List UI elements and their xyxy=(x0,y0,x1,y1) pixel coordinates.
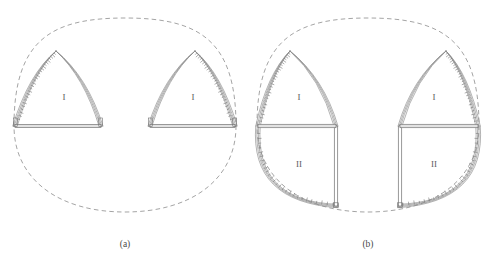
panel-a-left-anchor-hatch xyxy=(17,53,56,120)
panel-a-right-anchor-hatch-tick xyxy=(195,53,197,55)
panel-b-excavation-profile xyxy=(257,18,479,212)
panel-a-left-anchor-hatch-tick xyxy=(52,55,55,58)
panel-a-left-arch-inner-stroke xyxy=(56,51,99,126)
panel-b-right-lower-arch-outer-stroke xyxy=(398,126,481,208)
panel-a-left-anchor-hatch-tick xyxy=(47,60,50,63)
panel-a-right-anchor-hatch xyxy=(195,53,233,120)
panel-b-right-upper-arch-inner-stroke xyxy=(402,51,446,126)
panel-a-right-arch-inner-stroke xyxy=(148,51,195,126)
panel-a-right-anchor-hatch-tick xyxy=(202,62,205,64)
panel-b-right-lower-arch-outer-stroke xyxy=(398,126,478,205)
panel-a-left-anchor-hatch-tick xyxy=(43,66,46,69)
panel-b-right-upper-anchor-hatch-tick xyxy=(448,56,451,58)
panel-b-right-zone-label-II: II xyxy=(431,159,437,169)
panel-b-right-lower-arch-outer-stroke xyxy=(398,126,476,204)
panel-b-right-upper-anchor-hatch xyxy=(446,53,477,122)
panel-b-right-upper-arch-inner-stroke xyxy=(399,51,446,126)
panel-a-left-zone-label-I: I xyxy=(63,92,66,102)
panel-a-right-anchor-hatch-tick xyxy=(200,60,203,63)
panel-a-right-arch-inner-stroke xyxy=(152,51,195,126)
panel-b-left-upper-arch-inner-stroke xyxy=(290,51,334,126)
panel-b-right-upper-anchor-hatch-tick xyxy=(446,55,449,57)
panel-b-right-temporary-wall xyxy=(398,126,401,206)
panel-b-right-upper-arch-outer-stroke xyxy=(446,51,480,126)
panel-b-right-upper-anchor-hatch-tick xyxy=(446,53,448,55)
panel-a-right-arch-inner-stroke xyxy=(151,51,195,126)
panel-b-left-upper-anchor-hatch-tick xyxy=(285,56,288,58)
panel-b-left-zone-label-II: II xyxy=(296,159,302,169)
panel-a-right-zone-label-I: I xyxy=(192,92,195,102)
panel-a-left-arch-inner-stroke xyxy=(56,51,103,126)
panel-b-left-upper-arch-inner-stroke xyxy=(290,51,337,126)
panel-b-left-upper-anchor-hatch-tick xyxy=(283,60,286,62)
panel-a-excavation-profile xyxy=(14,18,236,212)
panel-b-left-upper-anchor-hatch xyxy=(259,53,290,122)
excavation-stage-figure: II(a)IIIIII(b) xyxy=(0,0,490,267)
panel-a-right-arch-inner-stroke xyxy=(149,51,195,126)
panel-a-caption: (a) xyxy=(120,239,131,250)
panel-a-left-anchor-hatch-tick xyxy=(46,62,49,64)
diagram-canvas: II(a)IIIIII(b) xyxy=(0,0,490,267)
panel-a-left-arch-inner-stroke xyxy=(56,51,102,126)
panel-b-left-upper-arch-outer-stroke xyxy=(257,51,290,126)
panel-b-left-temporary-wall xyxy=(334,126,337,206)
panel-b-right-upper-anchor-hatch-tick xyxy=(450,60,453,62)
panel-a-right-anchor-hatch-tick xyxy=(198,56,200,58)
panel-a-right-anchor-hatch-tick xyxy=(205,66,208,68)
panel-a-left-anchor-hatch-tick xyxy=(51,56,53,58)
panel-b-right-zone-label-I: I xyxy=(433,92,436,102)
panel-a-left-anchor-hatch-tick xyxy=(54,53,56,55)
panel-b-left-upper-arch-inner-stroke xyxy=(290,51,335,126)
panel-a-right-anchor-hatch-tick xyxy=(196,55,199,58)
panel-b-left-upper-anchor-hatch-tick xyxy=(288,53,290,55)
panel-b-left-zone-label-I: I xyxy=(298,92,301,102)
panel-a-left-arch-inner-stroke xyxy=(56,51,100,126)
panel-a-left-anchor-hatch-tick xyxy=(49,58,51,60)
panel-b-left-upper-anchor-hatch-tick xyxy=(287,55,290,57)
panel-b-caption: (b) xyxy=(362,239,373,250)
panel-b-right-upper-arch-outer-stroke xyxy=(446,51,479,126)
panel-b-left-upper-arch-outer-stroke xyxy=(256,51,290,126)
panel-b-right-upper-arch-inner-stroke xyxy=(401,51,446,126)
panel-a-right-anchor-hatch-tick xyxy=(200,58,202,60)
panel-b-right-lower-arch-outer-stroke xyxy=(398,126,479,207)
